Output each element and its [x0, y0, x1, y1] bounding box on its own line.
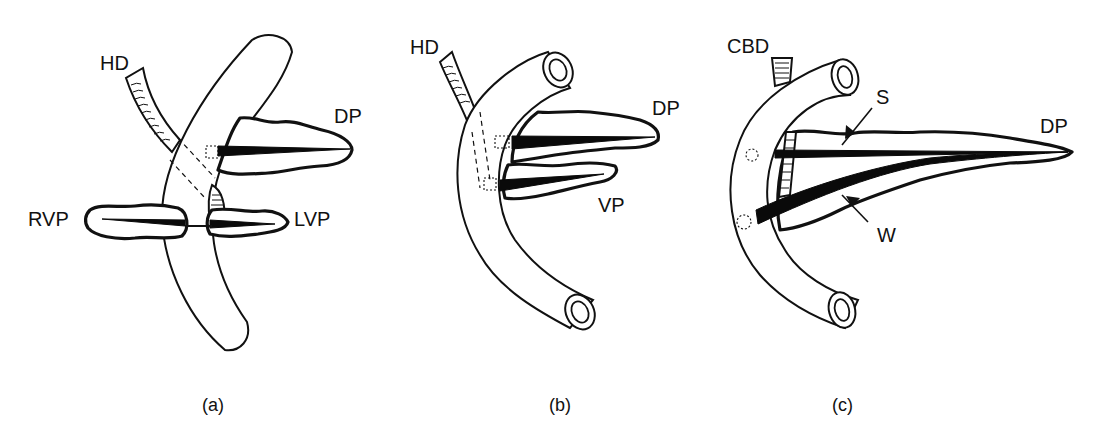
hepatic-duct-a	[126, 68, 180, 152]
panel-c: CBD S DP W (c)	[727, 35, 1072, 415]
dorsal-pancreas-c	[778, 131, 1072, 230]
label-dp-c: DP	[1040, 115, 1068, 137]
label-hd-b: HD	[410, 36, 439, 58]
caption-a: (a)	[202, 395, 224, 415]
duodenum-a	[162, 35, 292, 350]
label-hd-a: HD	[100, 52, 129, 74]
panel-a: HD DP RVP LVP (a)	[28, 35, 362, 415]
common-bile-duct	[772, 58, 792, 86]
caption-b: (b)	[549, 395, 571, 415]
label-rvp: RVP	[28, 208, 69, 230]
label-vp: VP	[598, 194, 625, 216]
label-dp-a: DP	[334, 105, 362, 127]
label-cbd: CBD	[727, 35, 769, 57]
caption-c: (c)	[832, 395, 853, 415]
label-dp-b: DP	[652, 97, 680, 119]
panel-b: HD DP VP (b)	[410, 36, 680, 415]
label-lvp: LVP	[294, 208, 330, 230]
label-w: W	[877, 224, 896, 246]
pancreas-development-diagram: HD DP RVP LVP (a) HD D	[0, 0, 1100, 442]
label-s: S	[876, 86, 889, 108]
dorsal-pancreas-a	[218, 118, 352, 174]
